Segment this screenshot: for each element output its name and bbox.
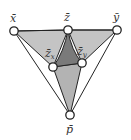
label-y: ȳ (112, 11, 120, 24)
node-x (10, 27, 18, 35)
label-z: z̄ (63, 11, 70, 24)
node-zx (49, 63, 57, 71)
graph-diagram: x̄ z̄ ȳ z̄x z̄y p̄ (0, 0, 131, 140)
node-y (113, 26, 121, 34)
node-p (66, 111, 74, 119)
label-p: p̄ (66, 123, 73, 136)
region-lower (53, 63, 82, 115)
node-z (64, 26, 72, 34)
label-x: x̄ (10, 12, 17, 25)
node-zy (78, 59, 86, 67)
label-zx-sub: x (51, 53, 55, 61)
